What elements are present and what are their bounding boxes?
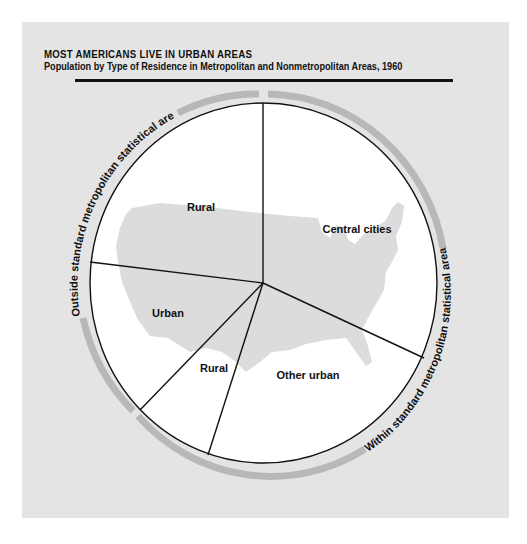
slice-label-other-urban: Other urban: [277, 369, 340, 381]
slice-label-rural-within: Rural: [200, 362, 228, 374]
slice-label-rural-outside: Rural: [187, 201, 215, 213]
slice-label-central-cities: Central cities: [322, 223, 391, 235]
pie-chart: Central cities Other urban Rural Urban R…: [0, 0, 527, 544]
slice-label-urban-outside: Urban: [152, 307, 184, 319]
